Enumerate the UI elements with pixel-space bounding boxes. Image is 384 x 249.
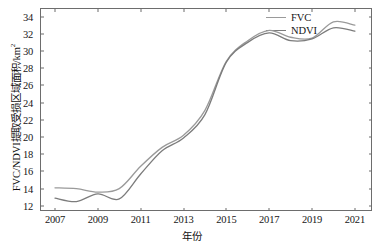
x-tick-label: 2013: [173, 214, 193, 225]
y-tick-label: 20: [23, 132, 33, 143]
y-tick-label: 18: [23, 149, 33, 160]
x-tick-label: 2007: [45, 214, 65, 225]
x-tick-label: 2019: [302, 214, 322, 225]
x-tick-label: 2009: [88, 214, 108, 225]
x-tick-label: 2017: [259, 214, 279, 225]
series-line-ndvi: [55, 28, 355, 202]
x-axis-title: 年份: [0, 228, 384, 243]
y-axis-title-text: FVC/NDVI提取受损区域面积/km: [11, 47, 22, 191]
y-tick-label: 16: [23, 166, 33, 177]
y-tick-label: 30: [23, 46, 33, 57]
y-tick-label: 14: [23, 183, 33, 194]
series-line-fvc: [55, 21, 355, 192]
chart-figure: 121416182022242628303234 200720092011201…: [0, 0, 384, 249]
y-tick-label: 24: [23, 97, 33, 108]
y-tick-label: 22: [23, 114, 33, 125]
x-tick-label: 2015: [216, 214, 236, 225]
figure-caption-strip: [0, 243, 384, 249]
x-tick-label: 2011: [131, 214, 151, 225]
y-axis-title-superscript: 2: [9, 43, 17, 46]
y-tick-label: 12: [23, 200, 33, 211]
y-tick-label: 34: [23, 11, 33, 22]
y-axis-title: FVC/NDVI提取受损区域面积/km2: [8, 17, 23, 217]
y-tick-label: 26: [23, 80, 33, 91]
y-tick-label: 28: [23, 63, 33, 74]
y-tick-label: 32: [23, 28, 33, 39]
data-curves: [40, 8, 372, 211]
x-tick-label: 2021: [345, 214, 365, 225]
curve-svg: [40, 8, 372, 211]
